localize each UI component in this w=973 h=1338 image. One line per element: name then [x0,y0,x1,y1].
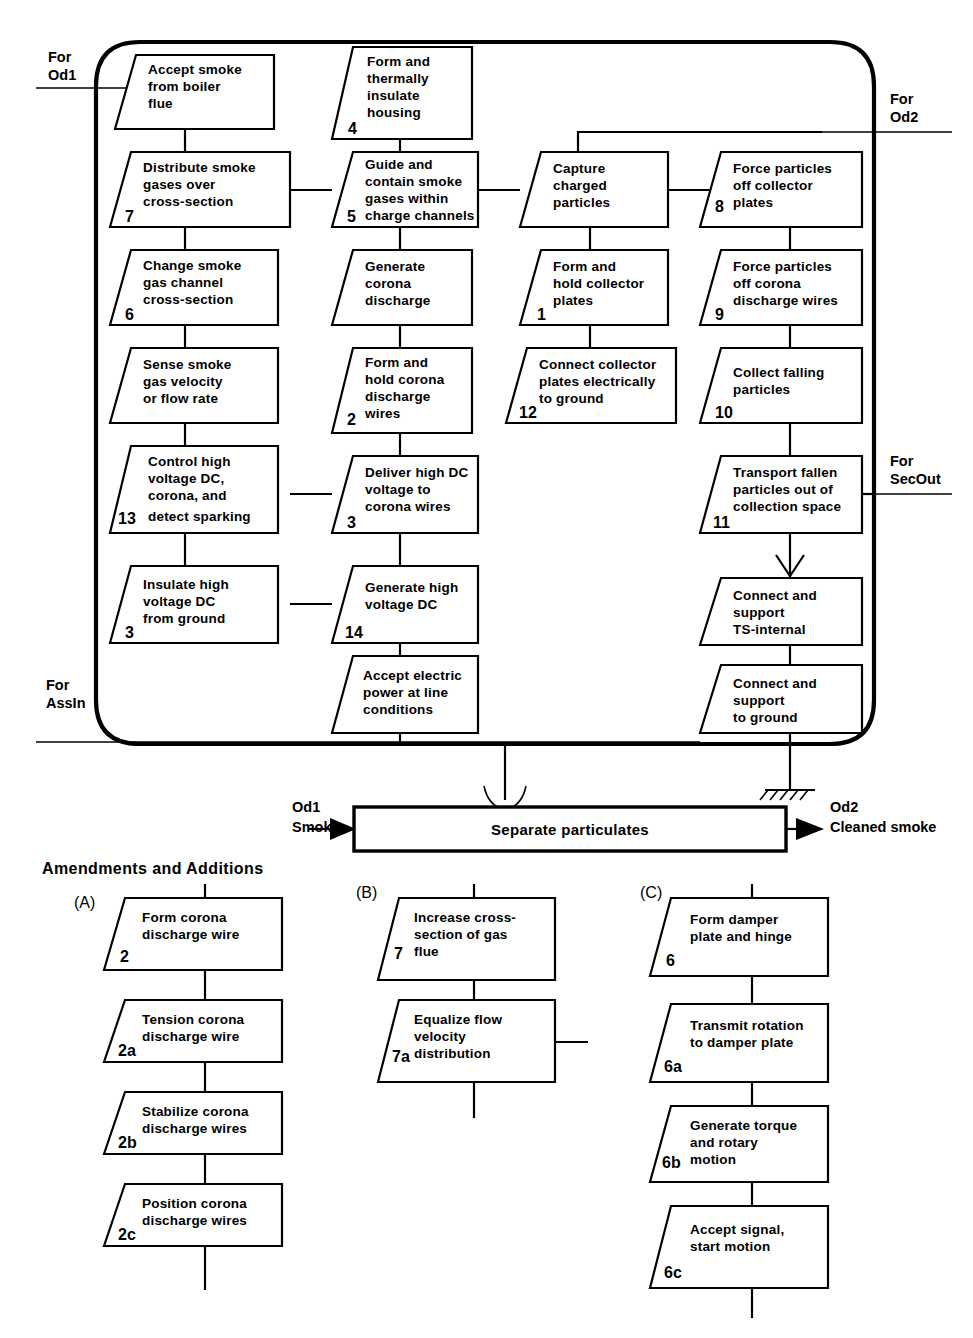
box-form-hold-plates[interactable]: Form and hold collector plates 1 [520,250,668,325]
box-line: Position corona [142,1196,247,1211]
box-line: Force particles [733,161,832,176]
box-line: Transmit rotation [690,1018,804,1033]
box-line: gas velocity [143,374,223,389]
box-c-generate-torque[interactable]: Generate torque and rotary motion 6b [650,1106,828,1182]
box-line: voltage DC, [148,471,224,486]
box-a-tension-corona-wire[interactable]: Tension corona discharge wire 2a [104,1000,282,1062]
box-number: 2c [118,1226,136,1243]
box-number: 2a [118,1042,136,1059]
box-number: 6c [664,1264,682,1281]
box-number: 1 [537,306,546,323]
box-line: voltage DC [365,597,438,612]
box-b-increase-cross-section[interactable]: Increase cross- section of gas flue 7 [378,898,555,980]
box-line: Form corona [142,910,227,925]
box-deliver-high-voltage[interactable]: Deliver high DC voltage to corona wires … [332,456,478,533]
box-line: Form and [553,259,616,274]
box-line: flue [414,944,439,959]
box-connect-support-ts[interactable]: Connect and support TS-internal [700,578,862,645]
box-number: 6b [662,1154,681,1171]
box-generate-high-voltage[interactable]: Generate high voltage DC 14 [332,566,478,643]
box-number: 2 [120,948,129,965]
box-force-off-collector[interactable]: Force particles off collector plates 8 [700,152,862,227]
box-number: 2 [347,411,356,428]
box-sense-velocity[interactable]: Sense smoke gas velocity or flow rate [110,348,278,423]
box-line: particles [733,382,790,397]
box-line: discharge wires [142,1213,247,1228]
box-line: from boiler [148,79,221,94]
box-number: 6a [664,1058,682,1075]
box-line: support [733,605,785,620]
box-change-channel[interactable]: Change smoke gas channel cross-section 6 [110,250,278,325]
box-line: gases over [143,177,216,192]
box-number: 5 [347,208,356,225]
box-line: discharge wires [142,1121,247,1136]
box-line: particles out of [733,482,833,497]
box-line: Accept signal, [690,1222,784,1237]
box-collect-falling[interactable]: Collect falling particles 10 [700,348,862,423]
box-line: housing [367,105,421,120]
box-line: Force particles [733,259,832,274]
box-distribute-smoke[interactable]: Distribute smoke gases over cross-sectio… [110,152,290,227]
box-form-housing[interactable]: Form and thermally insulate housing 4 [332,47,472,139]
box-force-off-wires[interactable]: Force particles off corona discharge wir… [700,250,862,325]
box-a-stabilize-corona-wires[interactable]: Stabilize corona discharge wires 2b [104,1092,282,1154]
box-line: to ground [539,391,604,406]
output-tag-od2: Od2 [830,799,858,815]
box-line: discharge [365,389,431,404]
box-line: corona, and [148,488,227,503]
box-number: 2b [118,1134,137,1151]
box-c-transmit-rotation[interactable]: Transmit rotation to damper plate 6a [650,1004,828,1082]
box-line: distribution [414,1046,491,1061]
box-control-high-voltage[interactable]: Control high voltage DC, corona, and det… [110,446,278,533]
box-line: Equalize flow [414,1012,502,1027]
box-insulate-high-voltage[interactable]: Insulate high voltage DC from ground 3 [110,566,278,643]
box-line: insulate [367,88,420,103]
box-transport-fallen[interactable]: Transport fallen particles out of collec… [700,456,862,533]
box-accept-electric-power[interactable]: Accept electric power at line conditions [332,656,478,733]
box-line: gas channel [143,275,223,290]
box-line: Connect and [733,676,817,691]
function-structure-diagram: Accept smoke from boiler flue Form and t… [0,0,973,1338]
box-line: charge channels [365,208,475,223]
separate-box-label: Separate particulates [491,821,649,838]
svg-text:Od2: Od2 [890,109,918,125]
box-line: Form damper [690,912,779,927]
box-connect-plates-ground[interactable]: Connect collector plates electrically to… [506,348,676,423]
box-line: from ground [143,611,225,626]
box-line: and rotary [690,1135,758,1150]
box-b-equalize-flow[interactable]: Equalize flow velocity distribution 7a [378,1000,555,1082]
box-line: plate and hinge [690,929,792,944]
box-capture-charged[interactable]: Capture charged particles [520,152,668,227]
box-a-position-corona-wires[interactable]: Position corona discharge wires 2c [104,1184,282,1246]
box-hold-corona-wires[interactable]: Form and hold corona discharge wires 2 [332,348,472,433]
box-line: charged [553,178,607,193]
box-c-accept-signal[interactable]: Accept signal, start motion 6c [650,1206,828,1288]
box-number: 7 [125,208,134,225]
separate-particulates-box[interactable]: Separate particulates [354,807,786,851]
box-connect-support-ground[interactable]: Connect and support to ground [700,665,862,733]
box-guide-contain[interactable]: Guide and contain smoke gases within cha… [332,152,478,227]
box-line: Collect falling [733,365,825,380]
box-line: Tension corona [142,1012,245,1027]
box-line: thermally [367,71,429,86]
box-line: Connect and [733,588,817,603]
input-label-smoke: Smoke [292,819,340,835]
box-line: Sense smoke [143,357,232,372]
box-generate-corona[interactable]: Generate corona discharge [332,250,472,325]
box-line: Capture [553,161,606,176]
box-line: gases within [365,191,448,206]
box-accept-smoke[interactable]: Accept smoke from boiler flue [115,55,274,129]
box-line: discharge wires [733,293,838,308]
box-number: 6 [666,952,675,969]
svg-text:SecOut: SecOut [890,471,941,487]
box-line: Form and [365,355,428,370]
box-line: cross-section [143,194,233,209]
box-c-form-damper[interactable]: Form damper plate and hinge 6 [650,898,828,976]
box-line: motion [690,1152,736,1167]
box-line: wires [364,406,401,421]
output-label-cleaned: Cleaned smoke [830,819,936,835]
box-line: velocity [414,1029,466,1044]
box-a-form-corona-wire[interactable]: Form corona discharge wire 2 [104,898,282,970]
svg-text:For: For [890,453,914,469]
box-line: corona wires [365,499,451,514]
